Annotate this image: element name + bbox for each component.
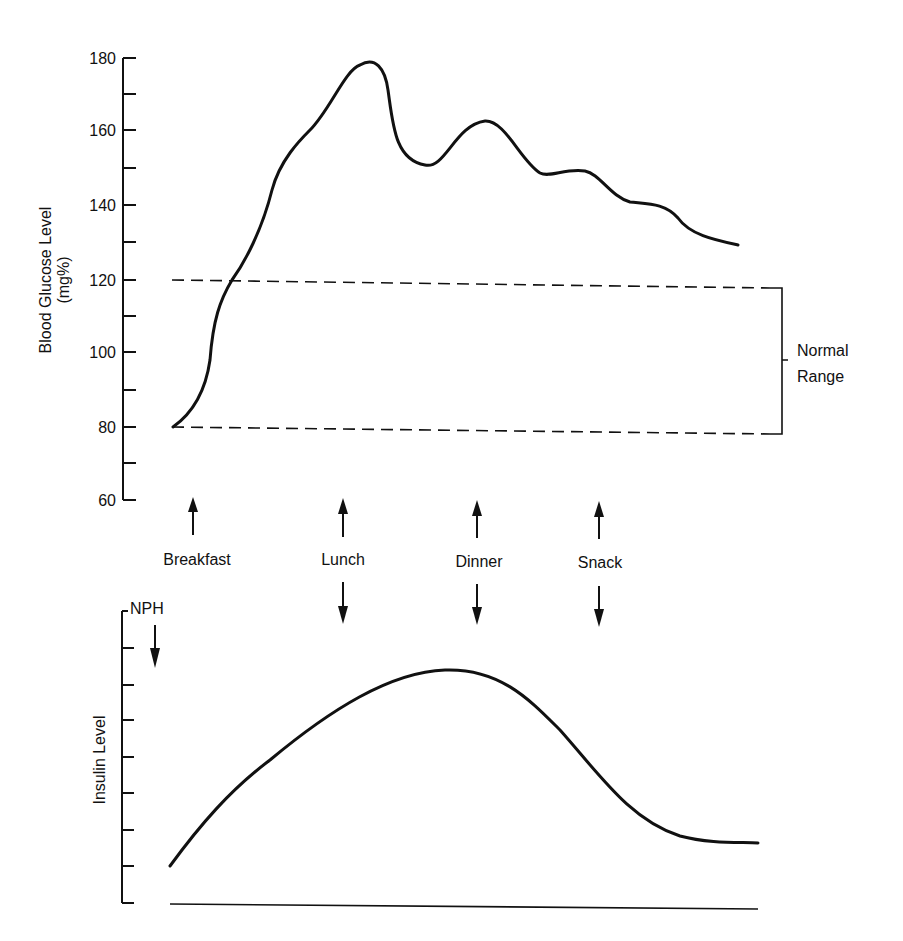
- snack-down-arrow-icon: [594, 586, 604, 627]
- meal-down-arrows: [338, 582, 604, 627]
- glucose-axis-title: Blood Glucose Level: [37, 207, 54, 354]
- insulin-baseline: [170, 904, 758, 909]
- tick-180: 180: [89, 50, 116, 67]
- normal-range-bracket: [770, 288, 788, 434]
- glucose-y-label: Blood Glucose Level (mg%): [37, 207, 72, 354]
- meal-label-snack: Snack: [578, 554, 623, 571]
- tick-60: 60: [98, 492, 116, 509]
- dinner-down-arrow-icon: [472, 584, 482, 625]
- normal-range-label-1: Normal: [797, 342, 849, 359]
- lunch-up-arrow-icon: [338, 498, 348, 537]
- snack-up-arrow-icon: [594, 501, 604, 539]
- meal-up-arrows: [188, 497, 604, 539]
- glucose-curve: [173, 62, 738, 427]
- tick-120: 120: [89, 272, 116, 289]
- glucose-tick-labels: 180 160 140 120 100 80 60: [89, 50, 116, 509]
- nph-label: NPH: [130, 600, 164, 617]
- glucose-insulin-chart: 180 160 140 120 100 80 60 Blood Glucose …: [0, 0, 903, 941]
- meal-label-lunch: Lunch: [321, 551, 365, 568]
- glucose-axis-unit: (mg%): [55, 256, 72, 303]
- dinner-up-arrow-icon: [472, 500, 482, 538]
- tick-140: 140: [89, 197, 116, 214]
- glucose-y-axis: [123, 58, 136, 500]
- normal-range-label-2: Range: [797, 368, 844, 385]
- normal-range-lower-line: [172, 427, 770, 434]
- insulin-y-axis: [122, 611, 134, 903]
- breakfast-up-arrow-icon: [188, 497, 198, 535]
- insulin-axis-title: Insulin Level: [91, 716, 108, 805]
- meal-label-breakfast: Breakfast: [163, 551, 231, 568]
- tick-80: 80: [98, 419, 116, 436]
- tick-160: 160: [89, 122, 116, 139]
- meal-label-dinner: Dinner: [455, 553, 503, 570]
- normal-range-upper-line: [172, 280, 770, 288]
- nph-down-arrow-icon: [150, 625, 160, 668]
- lunch-down-arrow-icon: [338, 582, 348, 624]
- tick-100: 100: [89, 344, 116, 361]
- insulin-curve: [170, 670, 758, 866]
